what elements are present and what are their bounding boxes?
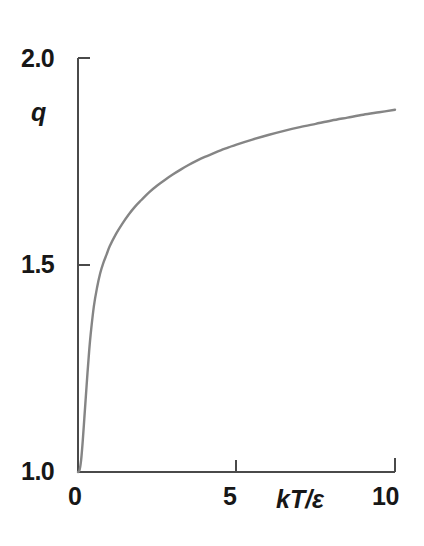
y-tick-label-1.0: 1.0 <box>21 457 54 486</box>
x-tick-label-5: 5 <box>223 482 236 511</box>
plot-canvas <box>0 0 424 546</box>
y-axis-title: q <box>31 98 46 127</box>
x-tick-label-10: 10 <box>372 482 399 511</box>
y-tick-label-1.5: 1.5 <box>21 250 54 279</box>
chart-figure: 2.0 1.5 1.0 0 5 10 q kT/ε <box>0 0 424 546</box>
x-tick-label-0: 0 <box>68 482 81 511</box>
y-tick-label-2.0: 2.0 <box>21 44 54 73</box>
data-curve <box>78 110 395 472</box>
x-axis-title: kT/ε <box>276 485 324 514</box>
